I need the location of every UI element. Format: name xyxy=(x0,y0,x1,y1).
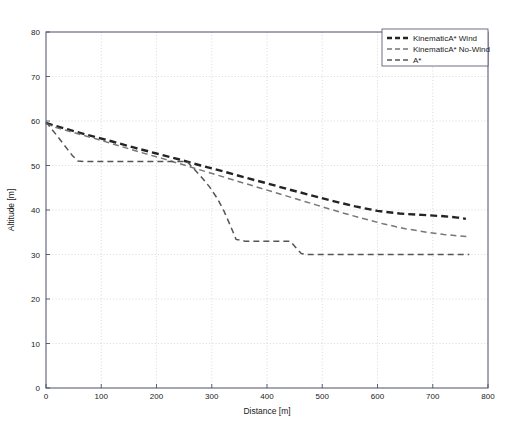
y-tick-label: 20 xyxy=(31,295,40,304)
chart-legend: KinematicA* WindKinematicA* No-WindA* xyxy=(382,29,490,66)
x-tick-label: 300 xyxy=(205,392,219,401)
y-tick-label: 50 xyxy=(31,162,40,171)
x-tick-label: 200 xyxy=(150,392,164,401)
x-tick-label: 700 xyxy=(426,392,440,401)
y-tick-label: 60 xyxy=(31,117,40,126)
y-tick-label: 80 xyxy=(31,28,40,37)
x-tick-label: 100 xyxy=(95,392,109,401)
legend-label: KinematicA* Wind xyxy=(413,34,477,43)
altitude-vs-distance-chart: 0100200300400500600700800010203040506070… xyxy=(0,0,521,422)
x-axis-title: Distance [m] xyxy=(243,406,290,416)
x-tick-label: 0 xyxy=(44,392,49,401)
x-tick-label: 600 xyxy=(371,392,385,401)
legend-label: KinematicA* No-Wind xyxy=(413,45,490,54)
y-tick-label: 0 xyxy=(36,384,41,393)
legend-label: A* xyxy=(413,56,421,65)
x-tick-label: 400 xyxy=(260,392,274,401)
x-tick-label: 800 xyxy=(481,392,495,401)
chart-figure: 0100200300400500600700800010203040506070… xyxy=(0,0,521,422)
y-axis-title: Altitude [m] xyxy=(6,189,16,232)
y-tick-label: 30 xyxy=(31,251,40,260)
x-tick-label: 500 xyxy=(316,392,330,401)
y-tick-label: 40 xyxy=(31,206,40,215)
y-tick-label: 10 xyxy=(31,340,40,349)
y-tick-label: 70 xyxy=(31,73,40,82)
